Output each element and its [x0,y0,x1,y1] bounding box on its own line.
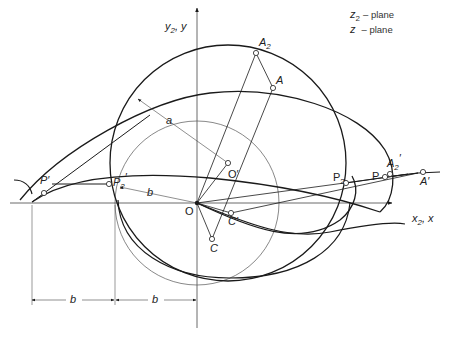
label-Cp: C′ [228,215,239,227]
point-P [382,174,387,179]
point-O [195,201,199,205]
x-axis-label: x2, x [411,212,434,227]
legend-line2: z– plane [349,23,393,35]
label-P: P [372,170,379,182]
radius-a-leader [138,99,228,163]
point-C [209,236,214,241]
label-Op: O′ [228,168,239,180]
line-Cp-Ap [231,173,418,213]
label-dim-right: b [152,293,158,305]
conformal-mapping-diagram: z2– plane z– plane y2, y x2, x A2 A A2′ … [0,0,449,338]
airfoil-upper-curve [20,92,393,212]
point-P2p [106,181,111,186]
trailing-edge-curve [14,180,32,194]
label-Ap: A′ [419,175,430,187]
label-O: O [185,205,194,217]
label-radius-a: a [166,114,172,126]
label-radius-b: b [147,186,153,198]
y-axis-label: y2, y [164,20,188,35]
mapped-lower-arc [118,200,350,278]
label-A2p: A2′ [386,152,402,172]
label-Pp: P′ [40,174,50,186]
point-Pp [41,190,46,195]
point-Op [225,160,230,165]
legend-line1: z2– plane [349,8,394,23]
point-Ap [420,169,425,174]
point-A2 [253,50,258,55]
line-O-Pp [30,200,197,203]
leading-line [32,115,150,202]
radius-b-leader [120,187,197,203]
line-C-A [212,88,273,239]
line-O-Op [197,163,228,203]
line-A2-A [256,53,273,88]
label-dim-left: b [70,293,76,305]
point-A [270,85,275,90]
point-A2p [387,171,392,176]
label-A: A [275,74,283,86]
line-O-A2 [197,53,256,203]
label-C: C [210,242,218,254]
